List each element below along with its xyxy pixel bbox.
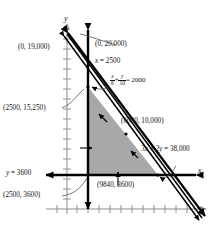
point-label-2500-15250: (2500, 15,250) xyxy=(3,104,46,112)
x-axis-label: x xyxy=(198,166,202,175)
point-label-2500-3600: (2500, 3600) xyxy=(3,191,40,199)
line-3x-2y-38000 xyxy=(64,34,202,220)
frac-equals-2000: = 2000 xyxy=(126,76,146,84)
label-fraction-equation: x 6 + y 10 = 2000 xyxy=(110,74,146,87)
y-axis-label: y xyxy=(64,14,68,23)
point-label-0-19000: (0, 19,000) xyxy=(18,43,50,51)
feasible-region-figure: y x (0, 19,000) (0, 20,000) x = 2500 (25… xyxy=(0,0,218,230)
point-label-9840-3600: (9840, 3600) xyxy=(97,181,134,189)
point-label-0-20000: (0, 20,000) xyxy=(95,40,127,48)
label-line-y-3600: y = 3600 xyxy=(6,169,31,177)
point-label-6000-10000: (6000, 10,000) xyxy=(121,117,164,125)
feasible-region-shading xyxy=(88,87,158,175)
fraction-y-over-10: y 10 xyxy=(118,74,126,87)
label-line-x-2500: x = 2500 xyxy=(95,57,120,65)
label-line-3x-2y: 3x + 2y = 38,000 xyxy=(141,145,190,153)
